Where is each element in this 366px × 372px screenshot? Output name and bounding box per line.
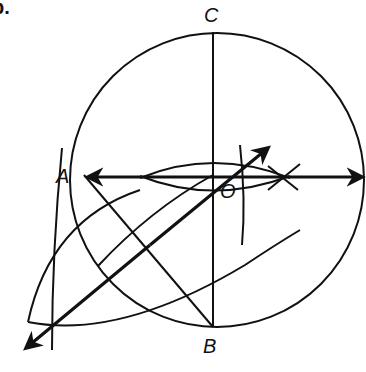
main-circle xyxy=(70,33,364,327)
chord-ab xyxy=(84,175,213,327)
label-o: O xyxy=(220,180,236,203)
arc-near-o xyxy=(240,145,244,245)
angle-bisector-line-lower xyxy=(26,245,150,348)
geometry-figure: b. xyxy=(0,0,366,372)
label-a: A xyxy=(56,165,69,188)
arc-ab-upper xyxy=(28,190,140,322)
construction-drawing xyxy=(0,0,366,372)
label-b: B xyxy=(203,335,216,358)
label-c: C xyxy=(204,4,218,27)
